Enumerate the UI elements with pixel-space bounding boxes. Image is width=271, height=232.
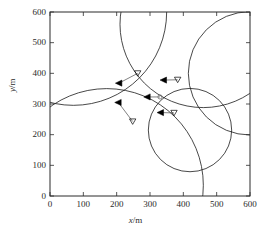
y-tick-label: 400 [0,69,46,78]
x-tick-label: 500 [202,200,232,209]
y-axis-title-unit: /m [7,78,17,88]
y-axis-title-var: y [7,88,17,92]
coverage-circle [148,88,231,171]
agent-marker [160,77,166,83]
y-tick-label: 300 [0,100,46,109]
axes-frame [50,12,250,196]
x-tick-label: 300 [135,200,165,209]
x-tick-label: 100 [68,200,98,209]
x-tick-label: 400 [168,200,198,209]
agent-marker [115,99,121,105]
y-tick-label: 600 [0,8,46,17]
y-axis-title: y/m [8,78,17,92]
y-tick-label: 200 [0,130,46,139]
x-axis-title-unit: /m [133,215,143,225]
coverage-circle [120,0,271,108]
y-tick-label: 500 [0,38,46,47]
axis-ticks [50,12,250,196]
agent-marker [144,94,150,100]
x-tick-label: 600 [235,200,265,209]
x-tick-label: 200 [102,200,132,209]
target-marker [129,119,135,124]
agent-marker [157,110,163,116]
x-axis-title: x/m [0,216,271,225]
y-tick-label: 100 [0,161,46,170]
marker-layer [115,71,181,125]
agent-marker [115,80,121,86]
figure: 0100200300400500600 0100200300400500600 … [0,0,271,232]
x-tick-label: 0 [35,200,65,209]
